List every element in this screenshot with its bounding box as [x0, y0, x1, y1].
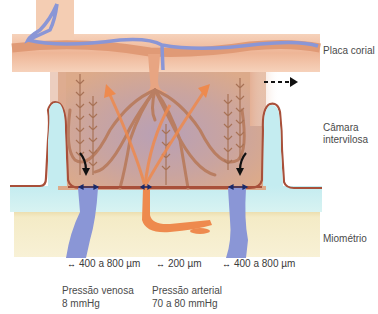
measurement-value: 400 a 800 µm: [234, 258, 295, 269]
label-chorionic-plate: Placa corial: [323, 45, 375, 57]
label-myometrium: Miométrio: [323, 233, 367, 245]
spiral-artery-segment: [190, 228, 210, 234]
venous-pressure-label: Pressão venosa: [62, 284, 134, 297]
arterial-pressure-label: Pressão arterial: [152, 284, 222, 297]
label-intervillous-line2: intervilosa: [323, 134, 368, 146]
arterial-pressure-value: 70 a 80 mmHg: [152, 297, 222, 310]
measurement-value: 400 a 800 µm: [79, 258, 140, 269]
venous-pressure: Pressão venosa 8 mmHg: [62, 284, 134, 310]
label-intervillous-line1: Câmara: [323, 122, 359, 134]
arterial-pressure: Pressão arterial 70 a 80 mmHg: [152, 284, 222, 310]
venous-pressure-value: 8 mmHg: [62, 297, 134, 310]
myometrium-band: [14, 210, 320, 257]
double-arrow-icon: ↔: [222, 258, 231, 270]
double-arrow-icon: ↔: [67, 258, 76, 270]
measurement-vein-left: ↔400 a 800 µm: [67, 258, 140, 270]
measurement-vein-right: ↔400 a 800 µm: [222, 258, 295, 270]
measurement-artery: ↔200 µm: [156, 258, 202, 270]
double-arrow-icon: ↔: [156, 258, 165, 270]
measurement-value: 200 µm: [168, 258, 202, 269]
